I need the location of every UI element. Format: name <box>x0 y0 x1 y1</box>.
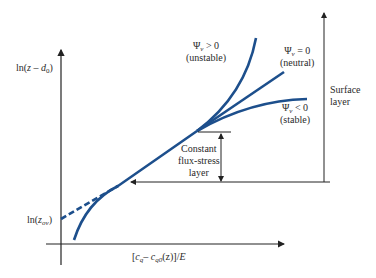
surface-layer-label: Surface layer <box>330 84 361 108</box>
constant-flux-layer-label: Constant flux-stress layer <box>178 143 220 179</box>
x-axis-label: [cq– cq0(z)]/E <box>132 251 186 263</box>
label-stable: Ψv < 0 (stable) <box>280 102 310 126</box>
label-neutral: Ψv = 0 (neutral) <box>280 45 314 69</box>
intercept-label: ln(zov) <box>27 214 52 226</box>
label-unstable: Ψv > 0 (unstable) <box>186 40 226 64</box>
y-axis-label: ln(z – d0) <box>16 62 53 74</box>
